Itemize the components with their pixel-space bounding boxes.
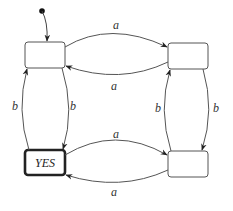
transition-label: b (70, 99, 76, 113)
transition-s4-s2 (164, 70, 171, 151)
transition-s1-s3 (62, 68, 69, 149)
transition-label: a (111, 79, 117, 93)
transition-label: b (12, 99, 18, 113)
transition-s2-s4 (202, 69, 209, 150)
transition-s2-s1 (66, 62, 168, 75)
transition-label: a (113, 127, 119, 141)
state-s3-label: YES (35, 156, 55, 170)
transition-s4-s3 (66, 170, 168, 182)
transition-s3-s4 (65, 140, 167, 155)
state-s1 (25, 42, 65, 68)
initial-transition (42, 11, 47, 41)
transition-label: a (113, 18, 119, 32)
state-s4 (168, 151, 208, 177)
state-s2 (168, 43, 208, 69)
transition-label: b (155, 101, 161, 115)
transition-s3-s1 (22, 69, 29, 150)
transition-s1-s2 (65, 34, 167, 48)
state-diagram: YES a a b b b b a a (0, 0, 233, 211)
transition-label: a (111, 185, 117, 199)
transition-label: b (213, 101, 219, 115)
